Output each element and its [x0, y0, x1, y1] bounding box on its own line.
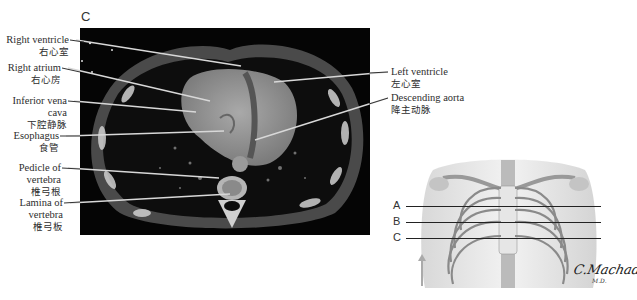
label-zh: 食管 — [14, 142, 60, 154]
ct-scan-graphic — [80, 28, 370, 235]
label-left-ventricle: Left ventricle 左心室 — [391, 66, 448, 90]
label-en: Right atrium — [8, 62, 61, 73]
label-en: Descending aorta — [391, 92, 464, 103]
label-en-line2: vertebra — [19, 174, 61, 186]
label-inferior-vena-cava: Inferior vena cava 下腔静脉 — [12, 95, 67, 131]
label-right-atrium: Right atrium 右心房 — [8, 62, 61, 86]
level-line-c — [406, 238, 601, 239]
level-line-b — [406, 222, 601, 223]
label-lamina-of-vertebra: Lamina of vertebra 椎弓板 — [20, 197, 63, 233]
label-en: Esophagus — [14, 130, 60, 141]
label-en: Right ventricle — [6, 34, 69, 45]
label-pedicle-of-vertebra: Pedicle of vertebra 椎弓根 — [19, 162, 61, 198]
artist-signature-credential: M.D. — [592, 277, 607, 284]
label-zh: 右心室 — [6, 46, 69, 58]
up-arrow-icon — [418, 254, 426, 286]
label-en-line1: Lamina of — [20, 197, 63, 209]
label-zh: 左心室 — [391, 78, 448, 90]
label-zh: 椎弓板 — [20, 221, 63, 233]
label-en-line2: cava — [12, 107, 67, 119]
label-right-ventricle: Right ventricle 右心室 — [6, 34, 69, 58]
label-en-line2: vertebra — [20, 209, 63, 221]
ct-axial-image — [80, 28, 370, 235]
panel-letter: C — [81, 9, 90, 24]
label-en-line1: Inferior vena — [12, 95, 67, 107]
label-en: Left ventricle — [391, 66, 448, 77]
level-label-c: C — [393, 231, 401, 243]
label-descending-aorta: Descending aorta 降主动脉 — [391, 92, 464, 116]
label-zh: 右心房 — [8, 74, 61, 86]
level-label-a: A — [393, 199, 400, 211]
level-label-b: B — [393, 215, 400, 227]
label-en-line1: Pedicle of — [19, 162, 61, 174]
label-esophagus: Esophagus 食管 — [14, 130, 60, 154]
label-zh: 降主动脉 — [391, 104, 464, 116]
level-line-a — [406, 206, 601, 207]
artist-signature: C.Machado — [572, 262, 637, 277]
